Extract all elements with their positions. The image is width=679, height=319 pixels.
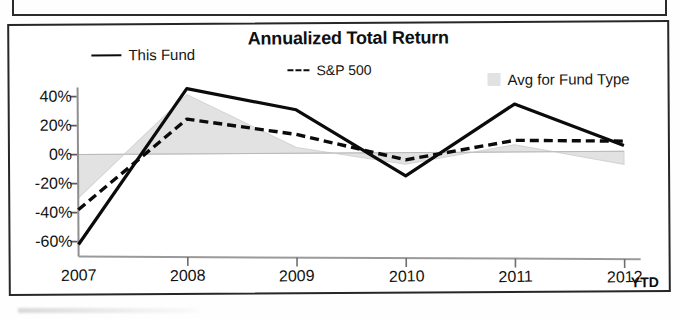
x-axis-line — [79, 253, 641, 262]
scanned-page: Annualized Total Return This Fund S&P 50… — [0, 0, 679, 319]
page-border-artifact — [12, 0, 667, 16]
y-axis-tick-label: -20% — [10, 175, 72, 193]
series-line-this-fund — [78, 86, 625, 244]
x-axis-tick-label: 2008 — [156, 266, 220, 285]
series-area-avg-for-fund-type — [78, 92, 625, 198]
y-axis-line — [78, 88, 79, 257]
scan-smudge — [18, 308, 198, 313]
y-axis-tick-label: 20% — [10, 117, 72, 135]
plot-area — [9, 22, 673, 298]
y-axis-tick-label: 40% — [10, 88, 72, 106]
ytd-label: YTD — [631, 274, 659, 290]
chart-canvas — [9, 22, 673, 298]
x-axis-tick-label: 2009 — [265, 267, 329, 286]
chart-figure: Annualized Total Return This Fund S&P 50… — [7, 20, 671, 296]
x-axis-tick-label: 2011 — [483, 267, 547, 286]
y-axis-tick-label: -40% — [10, 204, 72, 222]
x-axis-tick-label: 2010 — [374, 267, 438, 286]
y-axis-tick-label: -60% — [10, 233, 72, 251]
y-axis-tick-label: 0% — [10, 146, 72, 164]
x-axis-tick-label: 2007 — [47, 266, 111, 285]
